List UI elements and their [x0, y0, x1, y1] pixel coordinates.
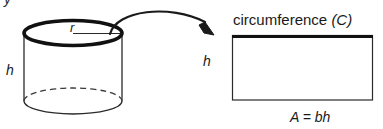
cylinder-bottom-front-arc	[24, 101, 122, 114]
cylinder-height-label: h	[6, 63, 14, 77]
circumference-variable: (C)	[331, 11, 352, 28]
curved-arrow-shaft	[110, 12, 205, 34]
circumference-word: circumference	[233, 11, 327, 28]
area-formula-label: A = bh	[290, 110, 330, 124]
curved-arrow	[110, 12, 214, 35]
curved-arrow-head	[199, 22, 214, 35]
unrolled-rectangle	[232, 36, 373, 101]
geometry-diagram: y r h h	[0, 0, 383, 129]
circumference-caption: circumference (C)	[233, 12, 352, 27]
radius-label: r	[70, 21, 74, 34]
rectangle-height-label: h	[203, 54, 211, 68]
cylinder-bottom-back-arc-dashed	[24, 88, 122, 101]
rectangle-outline	[233, 36, 373, 101]
